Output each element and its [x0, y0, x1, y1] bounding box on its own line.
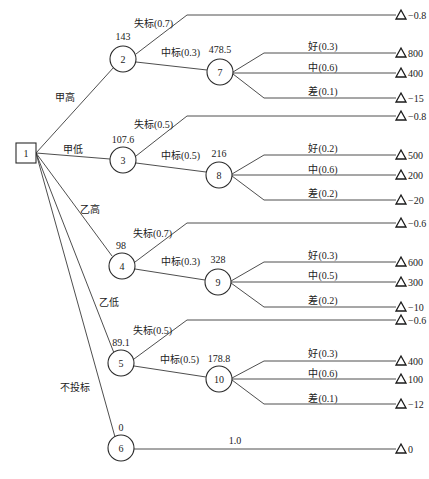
expected-value: 98 — [116, 240, 126, 251]
terminal-triangle-icon — [396, 170, 406, 179]
edge-3-win — [136, 163, 206, 172]
terminal-triangle-icon — [396, 399, 406, 408]
lose-label: 失标(0.5) — [134, 118, 173, 131]
terminal-triangle-icon — [396, 48, 406, 57]
node-id: 8 — [217, 170, 222, 181]
terminal-triangle-icon — [396, 444, 406, 453]
chance-node-6: 6 0 — [108, 422, 134, 461]
node-id: 3 — [121, 155, 126, 166]
terminal-triangle-icon — [396, 257, 406, 266]
outcome-label: 好(0.3) — [308, 250, 337, 262]
node-id: 2 — [121, 54, 126, 65]
outcome-label: 中(0.6) — [308, 367, 337, 380]
terminal-triangle-icon — [396, 68, 406, 77]
outcome-label: 中(0.6) — [308, 61, 337, 74]
edge-root-to-6 — [36, 153, 115, 437]
terminal-triangle-icon — [396, 218, 406, 227]
payoff-value: −12 — [408, 399, 424, 410]
payoff-value: 800 — [408, 48, 423, 59]
payoff-value: −0.8 — [408, 10, 426, 21]
chance-node-2: 2 143 — [110, 31, 136, 72]
terminal-triangle-icon — [396, 10, 406, 19]
outcome-label: 好(0.3) — [308, 41, 337, 53]
outcome-label: 差(0.1) — [308, 392, 337, 405]
terminal-triangle-icon — [396, 374, 406, 383]
payoff-value: 0 — [408, 444, 413, 455]
node-id: 4 — [120, 261, 125, 272]
payoff-value: 400 — [408, 68, 423, 79]
expected-value: 0 — [119, 422, 124, 433]
outcome-label: 好(0.2) — [308, 143, 337, 155]
lose-label: 失标(0.5) — [133, 324, 172, 337]
edge-root-to-2 — [36, 67, 114, 153]
terminal-triangle-icon — [396, 302, 406, 311]
terminal-triangle-icon — [396, 195, 406, 204]
terminal-triangle-icon — [396, 356, 406, 365]
expected-value: 216 — [212, 148, 227, 159]
terminal-triangle-icon — [396, 93, 406, 102]
win-label: 中标(0.5) — [160, 353, 199, 366]
expected-value: 178.8 — [208, 353, 231, 364]
payoff-value: −0.6 — [408, 315, 426, 326]
payoff-value: 500 — [408, 150, 423, 161]
chance-node-7: 7 478.5 — [207, 44, 233, 85]
chance-node-9: 9 328 — [205, 254, 231, 295]
payoff-labels: −0.8 800 400 −15 −0.8 500 200 −20 −0.6 6… — [408, 10, 426, 455]
payoff-value: 400 — [408, 356, 423, 367]
payoff-value: 600 — [408, 257, 423, 268]
option-label-jia-low: 甲低 — [63, 143, 83, 155]
terminal-nodes — [396, 10, 406, 453]
win-label: 中标(0.5) — [161, 149, 200, 162]
option-label-yi-high: 乙高 — [80, 203, 100, 215]
outcome-label: 差(0.1) — [308, 85, 337, 98]
win-label: 中标(0.3) — [161, 255, 200, 268]
payoff-value: −0.8 — [408, 111, 426, 122]
win-label: 中标(0.3) — [161, 46, 200, 59]
option-label-no-bid: 不投标 — [60, 381, 90, 393]
payoff-value: −15 — [408, 93, 424, 104]
payoff-value: −10 — [408, 302, 424, 313]
bid-option-labels: 甲高 甲低 乙高 乙低 不投标 — [55, 91, 119, 393]
payoff-value: 100 — [408, 374, 423, 385]
edge-5-win — [134, 366, 206, 377]
node-id: 7 — [218, 67, 223, 78]
expected-value: 143 — [116, 31, 131, 42]
direct-probability-label: 1.0 — [229, 435, 242, 446]
edge-2-win — [136, 62, 207, 70]
lose-label: 失标(0.7) — [133, 227, 172, 240]
node-id: 1 — [24, 148, 29, 159]
node-id: 10 — [214, 374, 224, 385]
chance-node-5: 5 89.1 — [108, 337, 134, 376]
terminal-triangle-icon — [396, 277, 406, 286]
payoff-value: 200 — [408, 170, 423, 181]
root-decision-node: 1 — [16, 143, 36, 163]
node-id: 6 — [119, 443, 124, 454]
outcome-label: 差(0.2) — [308, 294, 337, 307]
node-id: 9 — [216, 277, 221, 288]
payoff-value: −20 — [408, 195, 424, 206]
expected-value: 107.6 — [112, 134, 135, 145]
outcome-label: 中(0.6) — [308, 163, 337, 176]
outcome-label: 好(0.3) — [308, 348, 337, 360]
edge-root-to-4 — [36, 153, 112, 256]
chance-node-3: 3 107.6 — [110, 134, 136, 173]
expected-value: 328 — [211, 254, 226, 265]
option-label-jia-high: 甲高 — [55, 91, 75, 103]
lose-label: 失标(0.7) — [134, 17, 173, 30]
outcome-label: 中(0.5) — [308, 269, 337, 282]
decision-tree-diagram: 1 2 143 3 107.6 4 98 5 89.1 6 0 7 478.5 … — [0, 0, 429, 479]
outcome-label: 差(0.2) — [308, 187, 337, 200]
edge-root-to-5 — [36, 153, 114, 353]
terminal-triangle-icon — [396, 315, 406, 324]
payoff-value: 300 — [408, 277, 423, 288]
edge-4-win — [135, 269, 205, 280]
terminal-triangle-icon — [396, 150, 406, 159]
expected-value: 478.5 — [209, 44, 232, 55]
chance-node-4: 4 98 — [109, 240, 135, 279]
node-id: 5 — [119, 358, 124, 369]
payoff-value: −0.6 — [408, 218, 426, 229]
chance-node-8: 8 216 — [206, 148, 232, 188]
option-label-yi-low: 乙低 — [99, 296, 119, 308]
terminal-triangle-icon — [396, 111, 406, 120]
chance-node-10: 10 178.8 — [206, 353, 232, 392]
